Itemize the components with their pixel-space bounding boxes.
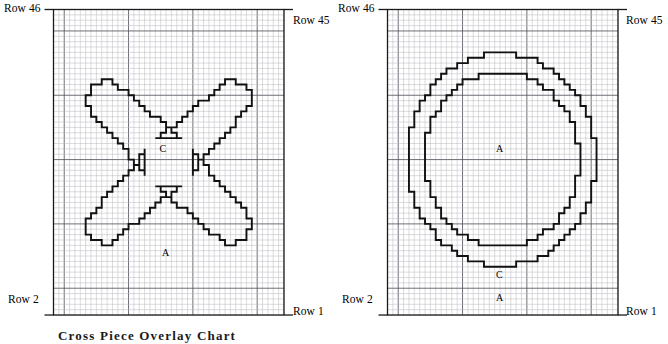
left-chart-region-label-a: A bbox=[162, 248, 169, 258]
right-chart-region-label-c: C bbox=[496, 270, 503, 280]
left-chart-bottom-left-label: Row 2 bbox=[8, 294, 39, 306]
right-chart-region-label-a-center: A bbox=[496, 144, 503, 154]
left-chart-top-left-label: Row 46 bbox=[4, 3, 41, 15]
figure-caption: Cross Piece Overlay Chart bbox=[58, 328, 236, 344]
right-chart-top-left-label: Row 46 bbox=[338, 3, 375, 15]
right-chart-top-right-label: Row 45 bbox=[626, 15, 663, 27]
circle-chart-grid bbox=[334, 0, 668, 339]
right-chart-bottom-left-label: Row 2 bbox=[342, 294, 373, 306]
right-chart-region-label-a-bottom: A bbox=[496, 293, 503, 303]
cross-chart-panel: Row 46 Row 45 Row 2 Row 1 C A bbox=[0, 0, 334, 339]
left-chart-region-label-c: C bbox=[159, 144, 166, 154]
left-chart-top-right-label: Row 45 bbox=[293, 15, 330, 27]
left-chart-bottom-right-label: Row 1 bbox=[293, 306, 324, 318]
right-chart-bottom-right-label: Row 1 bbox=[626, 306, 657, 318]
cross-chart-grid bbox=[0, 0, 334, 339]
circle-chart-panel: Row 46 Row 45 Row 2 Row 1 A C A bbox=[334, 0, 668, 339]
